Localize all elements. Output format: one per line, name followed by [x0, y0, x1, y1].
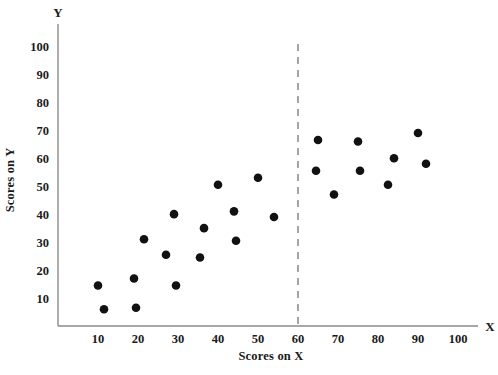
data-point [162, 250, 171, 259]
data-point [230, 207, 239, 216]
y-tick-label: 80 [37, 96, 50, 110]
x-tick-label: 50 [252, 332, 265, 346]
axes [58, 24, 478, 326]
y-tick-label: 90 [37, 68, 50, 82]
x-axis-endpoint-label: X [485, 319, 495, 334]
x-tick-label: 90 [412, 332, 425, 346]
data-point [414, 129, 423, 138]
data-point [422, 160, 431, 169]
x-tick-label: 30 [172, 332, 185, 346]
data-point [330, 190, 339, 199]
data-point [314, 136, 323, 145]
y-tick-label: 50 [37, 180, 50, 194]
x-axis-tick-labels: 102030405060708090100 [92, 332, 468, 346]
x-tick-label: 40 [212, 332, 225, 346]
y-axis-tick-labels: 102030405060708090100 [30, 40, 49, 306]
data-point [200, 224, 209, 233]
y-tick-label: 100 [30, 40, 49, 54]
x-axis-title: Scores on X [238, 349, 303, 363]
data-points-layer [94, 129, 431, 314]
y-tick-label: 70 [37, 124, 50, 138]
scatter-plot-canvas: Y X 102030405060708090100 10203040506070… [0, 0, 498, 375]
data-point [132, 304, 141, 313]
x-tick-label: 80 [372, 332, 385, 346]
data-point [196, 253, 205, 262]
y-axis-endpoint-label: Y [53, 5, 63, 20]
data-point [254, 173, 263, 182]
data-point [384, 180, 393, 189]
y-tick-label: 40 [37, 208, 50, 222]
data-point [214, 180, 223, 189]
data-point [172, 281, 181, 290]
data-point [94, 281, 103, 290]
y-tick-label: 10 [37, 292, 50, 306]
data-point [140, 235, 149, 244]
y-tick-label: 60 [37, 152, 50, 166]
x-tick-label: 100 [449, 332, 468, 346]
data-point [390, 154, 399, 163]
x-tick-label: 70 [332, 332, 345, 346]
scatter-plot-figure: Y X 102030405060708090100 10203040506070… [0, 0, 498, 375]
data-point [100, 305, 109, 314]
y-axis-title: Scores on Y [3, 148, 17, 213]
data-point [130, 274, 139, 283]
data-point [354, 137, 363, 146]
x-tick-label: 20 [132, 332, 145, 346]
data-point [312, 167, 321, 176]
data-point [270, 213, 279, 222]
x-tick-label: 60 [292, 332, 305, 346]
x-tick-label: 10 [92, 332, 105, 346]
y-tick-label: 30 [37, 236, 50, 250]
data-point [170, 210, 179, 219]
y-tick-label: 20 [37, 264, 50, 278]
data-point [232, 236, 241, 245]
data-point [356, 167, 365, 176]
